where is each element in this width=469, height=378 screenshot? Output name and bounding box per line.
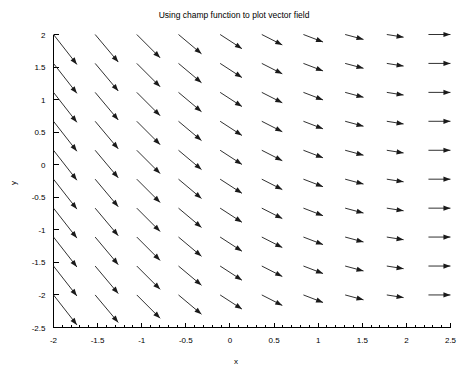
vector-arrow-head [316,95,323,100]
vector-arrow-head [71,115,77,122]
vector-arrow-head [443,148,450,153]
vector-arrow-head [275,68,282,73]
plot-canvas: Using champ function to plot vector fiel… [0,0,469,378]
x-tick-label: -0.5 [179,336,193,345]
vector-arrow-head [235,72,242,78]
vector-arrow-head [235,129,242,135]
vector-arrow-head [275,271,282,277]
vector-arrow-head [443,32,450,37]
vector-arrow-head [275,242,282,247]
vector-arrow-head [235,245,242,251]
vector-arrow-head [235,216,242,222]
vector-arrow-head [356,180,363,185]
x-tick-label: 2 [404,336,409,345]
vector-arrow-head [275,126,282,131]
vector-arrow-head [396,178,403,183]
vector-arrow-head [356,151,363,156]
chart-title: Using champ function to plot vector fiel… [159,10,310,20]
y-tick-label: 0.5 [34,128,46,137]
vector-arrow-head [316,182,323,187]
x-axis-label: x [234,357,238,366]
vector-arrow-head [275,97,282,103]
vector-arrow-head [356,296,363,301]
x-tick-label: 1.5 [357,336,369,345]
vector-arrow-head [71,144,77,151]
y-tick-label: -2 [38,291,46,300]
vector-arrow-head [71,231,77,238]
vector-arrow-head [443,292,450,297]
vector-arrow-head [356,267,363,272]
vector-arrow-head [396,207,403,212]
vector-arrow-head [356,122,363,127]
vector-arrow-head [356,238,363,243]
vector-arrow-head [396,294,403,299]
x-axis-tick-labels: -2-1.5-1-0.500.511.522.5 [50,336,457,345]
vector-arrow-head [275,213,282,218]
vector-arrow-head [396,120,403,125]
vector-arrow-head [443,61,450,66]
vector-arrow-head [443,263,450,268]
y-axis-label: y [9,181,18,185]
vector-arrow-head [443,177,450,182]
vector-arrow-head [443,119,450,124]
y-tick-label: -1.5 [32,258,46,267]
vector-arrow-head [443,90,450,95]
y-tick-label: -0.5 [32,193,46,202]
vector-arrow-head [356,209,363,214]
vector-arrow-head [356,93,363,98]
vector-arrow-head [316,269,323,274]
vector-arrow-head [71,202,77,209]
vector-arrow-head [275,300,282,306]
x-tick-label: 0.5 [268,336,280,345]
vector-arrow-head [316,298,323,303]
vector-arrow-head [396,91,403,96]
vector-arrow-head [396,34,403,39]
vector-arrow-head [316,124,323,129]
x-axis-ticks [54,323,451,328]
vector-arrow-head [356,35,363,40]
vector-arrow-head [71,86,77,93]
vector-arrow-head [275,155,282,161]
vector-arrow-head [71,289,77,296]
vector-arrow-head [71,57,77,64]
x-tick-label: 0 [228,336,233,345]
x-tick-label: 2.5 [445,336,457,345]
vector-arrow-head [235,303,242,309]
y-axis-tick-labels: 21.510.50-0.5-1-1.5-2-2.5 [32,31,46,333]
vector-arrow-head [235,158,242,164]
vector-arrow-head [235,187,242,193]
vector-arrow-head [71,260,77,267]
vector-arrow-head [316,211,323,216]
vector-arrow-head [396,149,403,154]
vector-arrow-head [235,101,242,107]
y-tick-label: 0 [41,161,46,170]
vector-arrow-head [396,62,403,67]
vector-arrow-head [235,43,242,49]
vector-arrow-head [71,173,77,180]
vector-arrow-head [443,206,450,211]
vector-arrow-head [275,39,282,44]
y-tick-label: 2 [41,31,46,40]
vector-arrow-head [316,153,323,158]
x-tick-label: 1 [316,336,321,345]
y-tick-label: 1.5 [34,63,46,72]
y-tick-label: 1 [41,96,46,105]
vector-arrow-head [275,184,282,190]
x-tick-label: -2 [50,336,58,345]
vector-arrow-head [316,66,323,71]
x-tick-label: -1 [138,336,146,345]
y-axis-ticks [54,35,59,328]
vector-field-plot: Using champ function to plot vector fiel… [0,0,469,378]
vector-arrow-head [316,240,323,245]
vector-arrow-head [71,318,77,325]
y-tick-label: -1 [38,226,46,235]
vector-arrow-head [443,234,450,239]
vector-arrow-head [396,236,403,241]
vector-field-arrows [54,32,451,325]
vector-arrow-head [316,37,323,42]
y-tick-label: -2.5 [32,324,46,333]
vector-arrow-head [356,64,363,69]
vector-arrow-head [235,274,242,280]
x-tick-label: -1.5 [91,336,105,345]
vector-arrow-head [396,265,403,270]
